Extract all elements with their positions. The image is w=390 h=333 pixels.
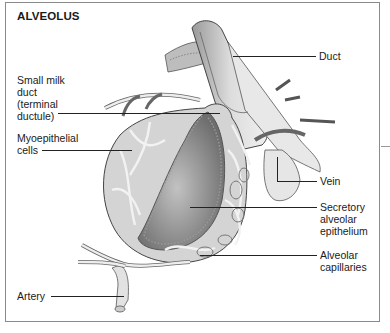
label-artery: Artery [17, 290, 45, 302]
secretory-leader [190, 207, 317, 208]
label-duct: Duct [319, 50, 341, 62]
diagram-title: ALVEOLUS [17, 10, 80, 22]
label-alveolar-capillaries: Alveolar capillaries [320, 249, 367, 273]
vein-leader-vertical [277, 157, 278, 181]
label-small-milk-duct: Small milk duct (terminal ductule) [17, 74, 65, 122]
artery-leader [51, 296, 124, 297]
label-vein: Vein [320, 175, 340, 187]
label-myoepithelial-cells: Myoepithelial cells [17, 132, 78, 156]
vein-leader [277, 181, 317, 182]
small-milk-duct-leader [58, 113, 220, 114]
duct-leader [233, 56, 316, 57]
label-secretory-epithelium: Secretory alveolar epithelium [320, 201, 368, 237]
alveolus-body [104, 104, 250, 263]
capillaries-leader [200, 255, 317, 256]
myoepithelial-leader [42, 150, 132, 151]
